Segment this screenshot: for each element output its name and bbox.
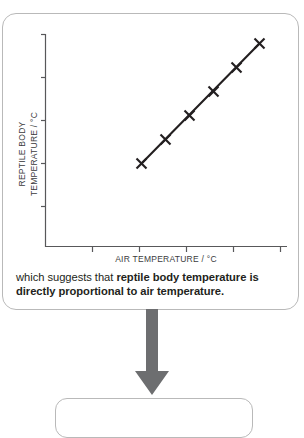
x-axis-ticks [93, 247, 281, 253]
chart-panel: REPTILE BODY TEMPERATURE / °C [2, 13, 299, 310]
data-point [232, 63, 242, 73]
chart-container: REPTILE BODY TEMPERATURE / °C [3, 14, 300, 267]
caption-lead: which suggests that [16, 271, 116, 283]
data-point [161, 135, 171, 145]
x-axis-label: AIR TEMPERATURE / °C [115, 254, 217, 264]
arrow-down-icon [130, 309, 174, 397]
data-point [185, 111, 195, 121]
next-step-panel [55, 398, 253, 438]
y-axis-ticks [41, 35, 46, 207]
y-axis-label-line-1: REPTILE BODY [17, 121, 27, 186]
data-point [137, 159, 147, 169]
scatter-chart: REPTILE BODY TEMPERATURE / °C [3, 14, 300, 267]
downward-flow-arrow [130, 309, 174, 397]
data-point [209, 87, 219, 97]
y-axis-label-line-2: TEMPERATURE / °C [29, 112, 39, 196]
y-axis-label: REPTILE BODY TEMPERATURE / °C [17, 112, 39, 196]
trend-line [141, 43, 260, 164]
panel-caption: which suggests that reptile body tempera… [16, 270, 288, 299]
data-point [255, 39, 265, 49]
